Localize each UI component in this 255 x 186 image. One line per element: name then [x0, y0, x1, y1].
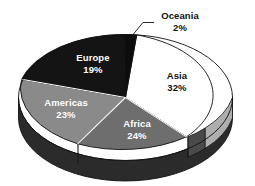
slice-label-asia-value: 32% [167, 82, 187, 93]
slice-label-americas-value: 23% [56, 109, 76, 120]
pie-chart-canvas: Asia 32% Africa 24% Americas 23% Europe … [0, 0, 255, 186]
callout-label-oceania-name: Oceania [161, 10, 199, 21]
slice-label-americas-name: Americas [44, 97, 88, 108]
slice-label-africa-value: 24% [127, 130, 147, 141]
slice-label-africa-name: Africa [123, 118, 151, 129]
slice-label-asia-name: Asia [167, 70, 188, 81]
slice-label-europe-value: 19% [83, 64, 103, 75]
pie-chart: Asia 32% Africa 24% Americas 23% Europe … [0, 0, 255, 186]
slice-label-europe-name: Europe [76, 52, 109, 63]
callout-label-oceania-value: 2% [173, 22, 187, 33]
